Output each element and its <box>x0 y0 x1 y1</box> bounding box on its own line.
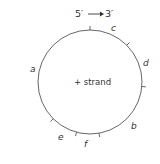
direction-3prime: 3′ <box>105 8 113 19</box>
circular-map-diagram: 5′ 3′ + strand a b c d e f <box>0 0 160 164</box>
region-label-d: d <box>143 58 149 68</box>
tick-c-d <box>127 42 130 45</box>
arrow-right-icon <box>88 12 104 17</box>
tick-e-f <box>76 132 77 136</box>
tick-f-b <box>99 133 100 137</box>
strand-label: + strand <box>74 77 111 87</box>
region-label-b: b <box>131 121 137 131</box>
region-label-c: c <box>111 23 116 33</box>
region-label-e: e <box>58 132 64 142</box>
tick-a-e <box>50 119 53 122</box>
region-label-a: a <box>30 64 36 74</box>
direction-5prime: 5′ <box>75 8 83 19</box>
region-label-f: f <box>84 139 89 149</box>
